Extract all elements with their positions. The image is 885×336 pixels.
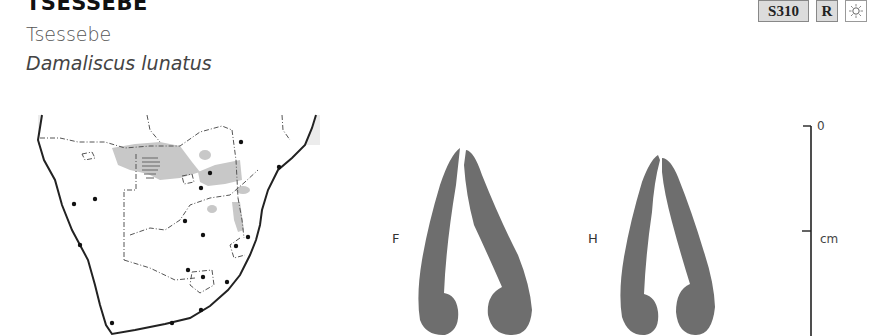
scale-bar	[780, 110, 885, 336]
badge-row: S310 R	[758, 0, 867, 22]
code-badge: S310	[758, 0, 809, 22]
sun-badge	[845, 0, 867, 22]
common-name: Tsessebe	[26, 22, 111, 46]
species-title: TSESSEBE	[26, 0, 148, 15]
sun-icon	[848, 3, 864, 19]
horn-diagram-female	[400, 145, 540, 336]
horn-label-f: F	[392, 231, 399, 246]
distribution-map	[0, 110, 330, 336]
horn-label-h: H	[588, 231, 598, 246]
scientific-name: Damaliscus lunatus	[26, 51, 212, 75]
horn-diagram-male	[600, 152, 725, 336]
rarity-badge: R	[816, 0, 838, 22]
